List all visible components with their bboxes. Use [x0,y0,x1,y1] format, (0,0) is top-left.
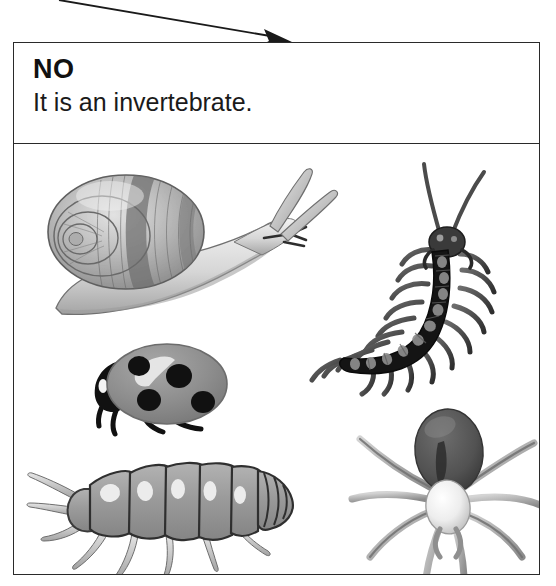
specimen-woodlouse [26,449,311,574]
illustration-panel [14,144,539,574]
centipede-legs [312,250,494,394]
specimen-ladybug [69,334,244,449]
woodlouse-segments [90,463,260,540]
ladybug-elytra [107,344,227,424]
ladybug-head-spot-left [99,379,108,393]
answer-verdict-label: NO [33,56,539,84]
snail-shell [48,175,204,289]
centipede-antennae [424,164,484,234]
specimen-snail [38,162,338,332]
arrow-shaft [59,0,276,37]
answer-statement-label: It is an invertebrate. [33,88,539,116]
answer-card: NO It is an invertebrate. [13,42,540,575]
specimen-centipede [302,150,537,420]
answer-text-panel: NO It is an invertebrate. [14,43,539,144]
specimen-spider [344,399,539,574]
